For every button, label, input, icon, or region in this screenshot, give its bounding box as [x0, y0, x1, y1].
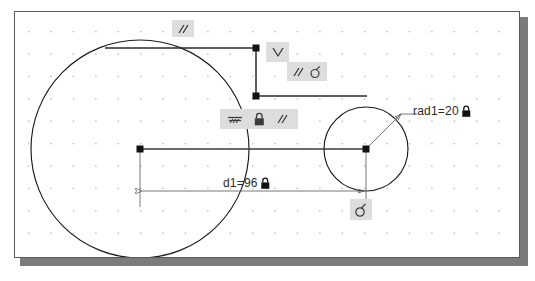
parallel-badge-top[interactable] [172, 20, 194, 37]
sketch-canvas[interactable]: rad1=20 d1=96 [14, 11, 520, 258]
ground-icon [227, 113, 244, 126]
lock-icon [253, 112, 266, 127]
parallel-icon [291, 66, 306, 78]
parallel-tangent-badge[interactable] [287, 62, 327, 81]
tangent-badge-bottom[interactable] [350, 199, 372, 220]
ground-lock-parallel-badge[interactable] [220, 109, 298, 129]
distance-dimension-label[interactable]: d1=96 [223, 176, 271, 190]
parallel-icon [175, 23, 191, 35]
point-handle[interactable] [363, 146, 370, 153]
sketch-application: rad1=20 d1=96 [0, 0, 535, 281]
tangent-icon [309, 65, 323, 79]
radius-dimension-text: rad1=20 [413, 104, 459, 118]
lock-icon [461, 105, 472, 118]
distance-dimension-text: d1=96 [223, 176, 258, 190]
point-handle[interactable] [253, 93, 260, 100]
radius-dimension-label[interactable]: rad1=20 [413, 104, 472, 118]
perpendicular-badge[interactable] [266, 42, 289, 62]
tangent-icon [354, 202, 369, 218]
rad1-leader-line[interactable] [366, 114, 401, 149]
point-handle[interactable] [253, 45, 260, 52]
point-handle[interactable] [137, 146, 144, 153]
perpendicular-icon [270, 45, 286, 59]
dot-grid [28, 31, 500, 234]
parallel-icon [275, 113, 291, 125]
lock-icon [260, 177, 271, 190]
